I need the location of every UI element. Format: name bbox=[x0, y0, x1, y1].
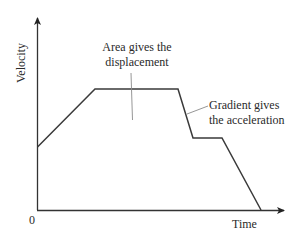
area-annotation-line2: displacement bbox=[98, 55, 176, 70]
gradient-annotation-line1: Gradient gives bbox=[209, 98, 295, 113]
gradient-leader-line bbox=[187, 106, 208, 114]
gradient-annotation-line2: the acceleration bbox=[209, 113, 295, 128]
area-annotation: Area gives the displacement bbox=[98, 40, 176, 70]
x-axis-label: Time bbox=[232, 217, 257, 231]
area-annotation-line1: Area gives the bbox=[98, 40, 176, 55]
gradient-annotation: Gradient gives the acceleration bbox=[209, 98, 295, 128]
y-axis-label: Velocity bbox=[14, 40, 28, 86]
area-leader-line bbox=[131, 73, 133, 120]
origin-label: 0 bbox=[29, 213, 35, 227]
